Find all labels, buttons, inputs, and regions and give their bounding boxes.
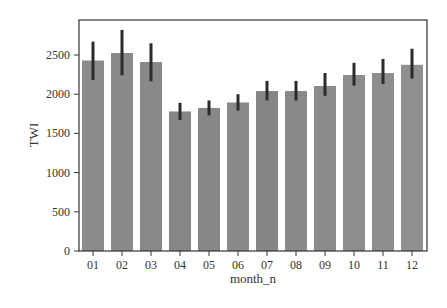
y-tick-label: 1500 [46,126,70,140]
y-tick-label: 0 [64,244,70,258]
y-tick-label: 1000 [46,166,70,180]
bar-chart: 05001000150020002500 0102030405060708091… [0,0,447,308]
x-tick-label: 04 [174,258,186,272]
bar-05 [198,108,220,251]
bar-12 [401,65,423,251]
y-axis-label: TWI [26,123,41,148]
bars-group [82,53,423,251]
x-tick-label: 02 [116,258,128,272]
x-tick-label: 06 [232,258,244,272]
bar-10 [343,75,365,251]
bar-08 [285,91,307,251]
x-tick-label: 01 [87,258,99,272]
x-tick-label: 12 [406,258,418,272]
x-tick-label: 10 [348,258,360,272]
y-axis: 05001000150020002500 [46,48,79,258]
x-tick-label: 09 [319,258,331,272]
x-axis-label: month_n [230,271,277,286]
bar-02 [111,53,133,251]
bar-09 [314,86,336,251]
x-tick-label: 07 [261,258,273,272]
y-tick-label: 2500 [46,48,70,62]
x-tick-label: 05 [203,258,215,272]
bar-03 [140,62,162,251]
x-tick-label: 11 [377,258,389,272]
y-tick-label: 500 [52,205,70,219]
bar-11 [372,73,394,251]
x-tick-label: 08 [290,258,302,272]
y-tick-label: 2000 [46,87,70,101]
bar-04 [169,111,191,251]
bar-06 [227,102,249,251]
x-tick-label: 03 [145,258,157,272]
x-axis: 010203040506070809101112 [87,251,418,272]
bar-01 [82,60,104,251]
bar-07 [256,91,278,251]
